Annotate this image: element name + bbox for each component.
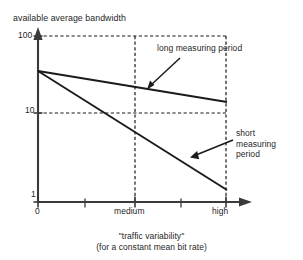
- x-axis-caption-text-2: (for a constant mean bit rate): [96, 242, 207, 252]
- x-axis-caption-line-2: (for a constant mean bit rate): [0, 242, 303, 253]
- chart-figure: available average bandwidth 100 10 1 0 m…: [0, 0, 303, 260]
- x-tick-label-high: high: [212, 206, 228, 217]
- annotation-label-long-measuring-period: long measuring period: [157, 43, 242, 54]
- x-axis-caption-line-1: "traffic variability": [0, 231, 303, 242]
- series-line-long-measuring-period: [38, 71, 227, 102]
- annotation-arrow-short: [196, 140, 233, 155]
- x-axis-arrowhead: [239, 197, 252, 206]
- x-tick-label-medium: medium: [114, 206, 145, 217]
- annotation-short-line-2: measuring: [236, 139, 276, 149]
- annotation-label-short-measuring-period: shortmeasuringperiod: [236, 128, 276, 160]
- x-tick-label-zero: 0: [35, 206, 40, 217]
- y-axis-title: available average bandwidth: [13, 13, 126, 24]
- annotation-arrow-long: [151, 58, 180, 85]
- series-line-short-measuring-period: [38, 71, 227, 190]
- annotation-short-line-1: short: [236, 128, 255, 138]
- y-tick-label-10: 10: [25, 105, 35, 116]
- annotation-short-line-3: period: [236, 149, 260, 159]
- annotation-arrowhead-short: [190, 151, 199, 159]
- y-tick-label-100: 100: [18, 30, 32, 41]
- y-axis-arrowhead: [33, 27, 42, 40]
- y-tick-label-1: 1: [31, 189, 36, 200]
- x-axis-caption-text-1: "traffic variability": [119, 231, 185, 241]
